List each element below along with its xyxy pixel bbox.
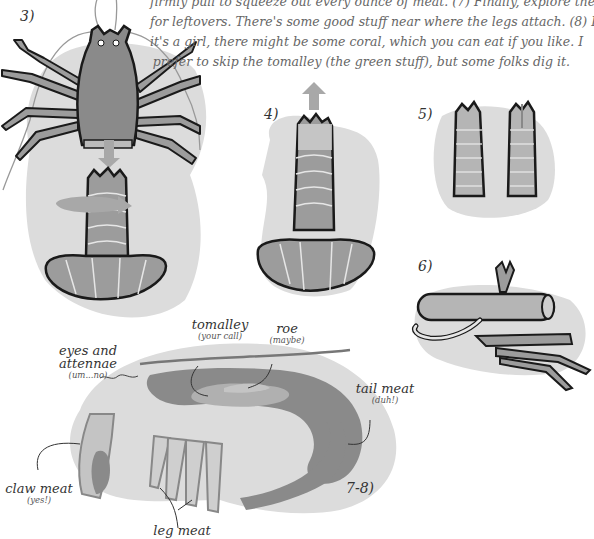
tail-label-main: tail meat <box>350 382 420 395</box>
lobster-illustration <box>0 0 594 539</box>
tail-label-sub: (duh!) <box>350 396 420 405</box>
step6-claw-legs-figure <box>415 262 590 390</box>
roe-label-main: roe <box>265 322 309 335</box>
tomalley-label-sub: (your call) <box>185 332 255 341</box>
step-3-label: 3) <box>20 8 34 24</box>
eyes-label-sub: (um...no) <box>28 371 148 380</box>
leg-meat-label: leg meat <box>150 524 214 537</box>
instructions-line: firmly pull to squeeze out every ounce o… <box>150 0 570 12</box>
claw-meat-label: claw meat (yes!) <box>4 482 74 505</box>
instructions-line: for leftovers. There's some good stuff n… <box>150 12 570 32</box>
instructions-line: prefer to skip the tomalley (the green s… <box>150 52 570 72</box>
step-5-label: 5) <box>418 106 432 122</box>
step-4-label: 4) <box>264 106 278 122</box>
tomalley-label: tomalley (your call) <box>185 318 255 341</box>
eyes-antennae-label: eyes and attennae (um...no) <box>28 344 148 380</box>
eyes-label-main: eyes and attennae <box>28 344 148 370</box>
leg-label-main: leg meat <box>150 524 214 537</box>
step5-split-tail-figure <box>434 102 555 218</box>
instructions-paragraph: firmly pull to squeeze out every ounce o… <box>150 0 570 72</box>
claw-label-main: claw meat <box>4 482 74 495</box>
tomalley-label-main: tomalley <box>185 318 255 331</box>
tail-meat-label: tail meat (duh!) <box>350 382 420 405</box>
claw-label-sub: (yes!) <box>4 496 74 505</box>
roe-label-sub: (maybe) <box>265 336 309 345</box>
step-6-label: 6) <box>418 258 432 274</box>
roe-label: roe (maybe) <box>265 322 309 345</box>
step-7-8-label: 7-8) <box>346 480 374 496</box>
instructions-line: it's a girl, there might be some coral, … <box>150 32 570 52</box>
